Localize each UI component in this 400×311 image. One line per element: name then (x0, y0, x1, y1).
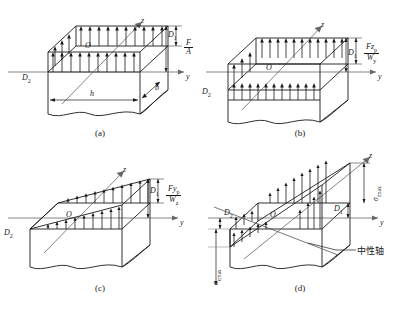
panel-d-corner-D1: D1 (334, 205, 343, 215)
panel-a-stress-numerator: F (184, 39, 193, 47)
panel-c-D2-sub: 2 (10, 233, 13, 239)
stress-arrows-tension (268, 161, 327, 230)
panel-d-D1-sub: 1 (340, 209, 343, 215)
axis-z (244, 157, 370, 259)
stress-arrows-lower-row (232, 83, 316, 100)
dimension-h (50, 98, 138, 101)
dimension-stress-magnitude (147, 179, 150, 218)
axis-z (62, 22, 142, 104)
panel-d-neutral-axis-label: 中性轴 (357, 244, 384, 257)
panel-d-origin-label: O (270, 211, 276, 219)
panel-c-D1-sub: 1 (156, 191, 159, 197)
panel-d-corner-D2: D2 (224, 209, 233, 219)
panel-b-axis-y-label: y (378, 73, 382, 81)
panel-b-origin-label: O (266, 64, 272, 72)
dimension-sigma-tmax (350, 163, 370, 203)
block-top-face (48, 46, 168, 72)
block-front-torn-edge (30, 265, 122, 269)
panel-c-corner-D2: D2 (4, 229, 13, 239)
panel-b-stress-denominator: Wy (364, 53, 379, 64)
stress-arrows-upper-row (260, 38, 344, 58)
panel-a-stress-formula: F A (184, 39, 193, 57)
panel-c: z y O D1 D2 Fyp Wz (c) (0, 155, 200, 311)
panel-b-stress-numerator: Fzp (364, 43, 379, 53)
panel-c-stress-numerator: Fyp (166, 185, 181, 195)
axis-y (8, 70, 184, 75)
panel-d-axis-y-label: y (380, 219, 384, 227)
panel-a-axis-z-label: z (141, 17, 144, 25)
panel-d-caption: (d) (200, 283, 400, 293)
panel-b-D1-sub: 1 (354, 53, 357, 59)
panel-a-origin-label: O (85, 42, 91, 50)
block-front-torn-edge (48, 112, 140, 116)
panel-a: z y O D1 D2 h b F A (a) (0, 0, 200, 156)
dimension-D2 (208, 218, 230, 229)
panel-d-D2-sub: 2 (230, 213, 233, 219)
stress-wedge-back (30, 179, 150, 229)
panel-b-caption: (b) (200, 128, 400, 138)
panel-c-stress-denominator: Wz (166, 195, 181, 206)
block-top-face (228, 64, 348, 90)
panel-a-axis-y-label: y (186, 73, 190, 81)
panel-c-axis-z-label: z (123, 166, 126, 174)
panel-a-corner-D1: D1 (168, 31, 177, 41)
panel-d: z y O D1 D2 σtmax σcmax 中性轴 (d) (200, 155, 400, 311)
panel-c-axis-y-label: y (180, 219, 184, 227)
panel-d-sigma-tmax-label: σtmax (372, 186, 382, 201)
panel-a-corner-D2: D2 (22, 74, 31, 84)
panel-b-corner-D1: D1 (348, 49, 357, 59)
panel-b-stress-formula: Fzp Wy (364, 43, 379, 64)
panel-a-dim-h-label: h (90, 90, 94, 98)
axis-z (44, 171, 124, 253)
stress-wedge-front (30, 205, 122, 229)
panel-a-dim-b-label: b (155, 84, 159, 92)
panel-a-D1-sub: 1 (174, 35, 177, 41)
panel-a-D2-sub: 2 (28, 78, 31, 84)
block-front-torn-edge (228, 120, 320, 124)
panel-c-corner-D1: D1 (150, 187, 159, 197)
panel-b-corner-D2: D2 (202, 88, 211, 98)
axis-y (206, 70, 376, 75)
panel-c-stress-formula: Fyp Wz (166, 185, 181, 206)
panel-c-caption: (c) (0, 283, 200, 293)
stress-arrows-front-row (51, 52, 136, 72)
panel-d-axis-z-label: z (369, 152, 372, 160)
panel-b-axis-z-label: z (321, 21, 324, 29)
panel-b-D2-sub: 2 (208, 92, 211, 98)
panel-a-stress-denominator: A (184, 47, 193, 56)
block-front-torn-edge (230, 265, 322, 269)
panel-a-caption: (a) (0, 128, 200, 138)
panel-b: z y O D1 D2 Fzp Wy (b) (200, 0, 400, 156)
panel-c-origin-label: O (66, 211, 72, 219)
